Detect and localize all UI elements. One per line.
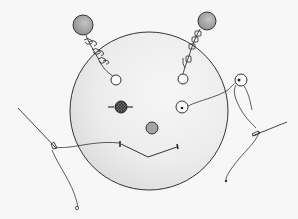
needle-with-thread-left	[18, 108, 79, 210]
round-nose	[146, 122, 158, 134]
needle-with-thread-right	[225, 122, 287, 182]
round-face	[70, 32, 228, 190]
sketch-canvas	[0, 0, 298, 219]
